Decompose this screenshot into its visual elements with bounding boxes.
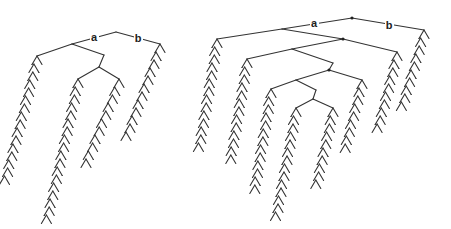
leaf-branch	[258, 129, 263, 138]
leaf-branch	[19, 104, 24, 113]
leaf-branch	[416, 54, 421, 63]
leaf-branch	[110, 87, 115, 96]
leaf-branch	[240, 67, 245, 76]
leaf-branch	[229, 131, 234, 140]
leaf-branch	[269, 97, 274, 106]
leaf-branch	[287, 156, 292, 165]
leaf-branch	[245, 67, 250, 76]
leaf-branch	[51, 175, 56, 184]
leaf-branch	[239, 99, 244, 108]
leaf-branch	[34, 64, 39, 73]
leaf-branch	[71, 111, 76, 120]
leaf-branch	[414, 46, 419, 55]
leaf-branch	[112, 95, 117, 104]
leaf-branch	[236, 123, 241, 132]
leaf-branch	[393, 68, 398, 77]
leaf-branch	[11, 136, 16, 145]
leaf-branch	[263, 137, 268, 146]
leaf-branch	[290, 140, 295, 149]
leaf-branch	[52, 167, 57, 176]
leaf-branch	[242, 59, 247, 68]
leaf-branch	[234, 99, 239, 108]
leaf-branch	[278, 204, 283, 213]
leaf-branch	[381, 108, 386, 117]
leaf-chain	[396, 30, 429, 111]
leaf-chain	[226, 59, 252, 164]
leaf-branch	[215, 47, 220, 56]
leaf-branch	[271, 212, 276, 221]
leaf-branch	[151, 52, 156, 61]
leaf-branch	[406, 70, 411, 79]
leaf-branch	[288, 124, 293, 133]
leaf-chain	[250, 89, 276, 194]
leaf-chain	[81, 79, 124, 168]
leaf-branch	[323, 148, 328, 157]
leaf-branch	[21, 112, 26, 121]
leaf-branch	[210, 47, 215, 56]
leaf-branch	[231, 155, 236, 164]
leaf-branch	[12, 152, 17, 161]
leaf-branch	[328, 108, 333, 117]
leaf-branch	[201, 127, 206, 136]
leaf-branch	[255, 177, 260, 186]
leaf-branch	[193, 143, 198, 152]
leaf-branch	[201, 135, 206, 144]
tree-edge	[292, 39, 343, 49]
leaf-branch	[209, 79, 214, 88]
tree-edge	[313, 99, 333, 108]
leaf-branch	[217, 39, 222, 48]
leaf-branch	[327, 132, 332, 141]
leaf-branch	[7, 152, 12, 161]
leaf-branch	[125, 124, 130, 133]
tree-edge	[271, 80, 296, 89]
tree-diagram-canvas: ab ab	[0, 0, 451, 229]
leaf-branch	[73, 79, 78, 88]
leaf-branch	[311, 180, 316, 189]
leaf-branch	[212, 39, 217, 48]
leaf-branch	[127, 116, 132, 125]
leaf-branch	[266, 121, 271, 130]
leaf-branch	[234, 107, 239, 116]
leaf-branch	[282, 180, 287, 189]
leaf-branch	[74, 95, 79, 104]
leaf-branch	[67, 103, 72, 112]
leaf-branch	[285, 164, 290, 173]
leaf-branch	[101, 111, 106, 120]
edge-label-a: a	[91, 31, 98, 43]
leaf-branch	[204, 111, 209, 120]
leaf-branch	[214, 55, 219, 64]
leaf-branch	[279, 172, 284, 181]
leaf-branch	[8, 168, 13, 177]
leaf-branch	[137, 92, 142, 101]
tree-edge	[99, 67, 119, 79]
leaf-branch	[266, 89, 271, 98]
leaf-branch	[121, 132, 126, 141]
leaf-branch	[61, 151, 66, 160]
leaf-branch	[244, 75, 249, 84]
leaf-branch	[24, 88, 29, 97]
leaf-chain	[311, 108, 338, 189]
edge-label-a: a	[311, 17, 318, 29]
leaf-branch	[273, 204, 278, 213]
leaf-branch	[340, 144, 345, 153]
leaf-branch	[384, 100, 389, 109]
leaf-branch	[264, 97, 269, 106]
leaf-branch	[411, 54, 416, 63]
tree-edge	[247, 49, 292, 59]
leaf-branch	[237, 91, 242, 100]
leaf-branch	[232, 115, 237, 124]
leaf-branch	[150, 68, 155, 77]
leaf-branch	[60, 159, 65, 168]
leaf-branch	[114, 79, 119, 88]
leaf-branch	[231, 123, 236, 132]
leaf-branch	[237, 115, 242, 124]
leaf-branch	[419, 46, 424, 55]
leaf-branch	[388, 68, 393, 77]
leaf-branch	[345, 144, 350, 153]
leaf-branch	[410, 78, 415, 87]
leaf-branch	[394, 60, 399, 69]
leaf-branch	[9, 160, 14, 169]
leaf-branch	[286, 132, 291, 141]
leaf-branch	[201, 103, 206, 112]
leaf-branch	[291, 132, 296, 141]
